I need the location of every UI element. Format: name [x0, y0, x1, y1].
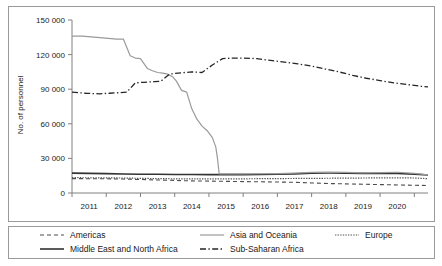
svg-text:0: 0 — [61, 189, 66, 198]
svg-text:30 000: 30 000 — [41, 154, 66, 163]
series-lines — [72, 36, 428, 185]
series-line-asia-and-oceania — [72, 36, 428, 175]
svg-text:60 000: 60 000 — [41, 120, 66, 129]
svg-text:2012: 2012 — [114, 202, 132, 211]
svg-text:2017: 2017 — [286, 202, 304, 211]
svg-text:2011: 2011 — [81, 202, 99, 211]
svg-text:2016: 2016 — [251, 202, 269, 211]
svg-text:2020: 2020 — [388, 202, 406, 211]
chart-plot: 030 00060 00090 000120 000150 000 201120… — [0, 0, 442, 266]
svg-text:2018: 2018 — [320, 202, 338, 211]
y-axis-ticks — [68, 20, 72, 193]
svg-text:2014: 2014 — [183, 202, 201, 211]
svg-text:120 000: 120 000 — [36, 51, 65, 60]
svg-text:150 000: 150 000 — [36, 16, 65, 25]
svg-text:2019: 2019 — [354, 202, 372, 211]
figure-container: Americas Asia and Oceania Europe Middle … — [0, 0, 442, 266]
svg-text:90 000: 90 000 — [41, 85, 66, 94]
x-axis-ticks — [72, 193, 414, 197]
series-line-sub-saharan-africa — [72, 58, 428, 94]
svg-text:2013: 2013 — [149, 202, 167, 211]
y-axis-title: No. of personnel — [16, 75, 25, 134]
svg-text:2015: 2015 — [217, 202, 235, 211]
series-line-americas — [72, 179, 428, 186]
axis-lines — [72, 20, 428, 193]
y-axis-tick-labels: 030 00060 00090 000120 000150 000 — [36, 16, 65, 198]
series-line-europe — [72, 178, 428, 179]
x-axis-tick-labels: 2011201220132014201520162017201820192020 — [81, 202, 407, 211]
